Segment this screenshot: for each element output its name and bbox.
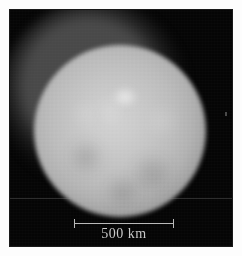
scale-bar-line [74, 223, 174, 224]
figure-container: 500 km [0, 0, 242, 256]
image-artifact-dot [225, 112, 227, 116]
scale-bar-label: 500 km [10, 226, 233, 242]
astronomical-image-panel: 500 km [9, 9, 233, 247]
disk-body [34, 45, 206, 217]
planetary-disk [34, 45, 206, 217]
